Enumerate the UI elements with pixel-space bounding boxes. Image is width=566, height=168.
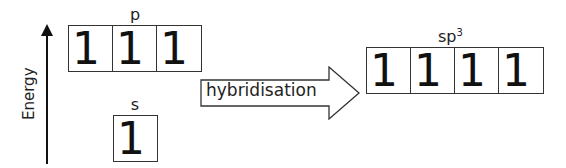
energy-axis-label: Energy bbox=[20, 67, 38, 120]
sp3-orbital-boxes: 1 1 1 1 bbox=[366, 47, 544, 94]
s-orbital-label: s bbox=[127, 97, 143, 113]
s-orbital-box: 1 bbox=[113, 115, 158, 162]
sp3-orbital-cell: 1 bbox=[455, 48, 499, 93]
sp3-orbital-label: sp3 bbox=[438, 29, 478, 45]
sp3-orbital-cell: 1 bbox=[411, 48, 455, 93]
s-orbital-cell: 1 bbox=[114, 116, 157, 161]
p-orbital-label: p bbox=[127, 7, 143, 23]
p-orbital-boxes: 1 1 1 bbox=[68, 25, 202, 72]
sp3-orbital-cell: 1 bbox=[367, 48, 411, 93]
sp3-orbital-cell: 1 bbox=[499, 48, 543, 93]
p-orbital-cell: 1 bbox=[69, 26, 113, 71]
p-orbital-cell: 1 bbox=[157, 26, 201, 71]
hybridisation-label: hybridisation bbox=[206, 82, 317, 99]
sp3-label-sup: 3 bbox=[457, 27, 463, 38]
p-orbital-cell: 1 bbox=[113, 26, 157, 71]
sp3-label-base: sp bbox=[438, 27, 457, 46]
energy-axis-arrow-icon bbox=[38, 24, 58, 166]
